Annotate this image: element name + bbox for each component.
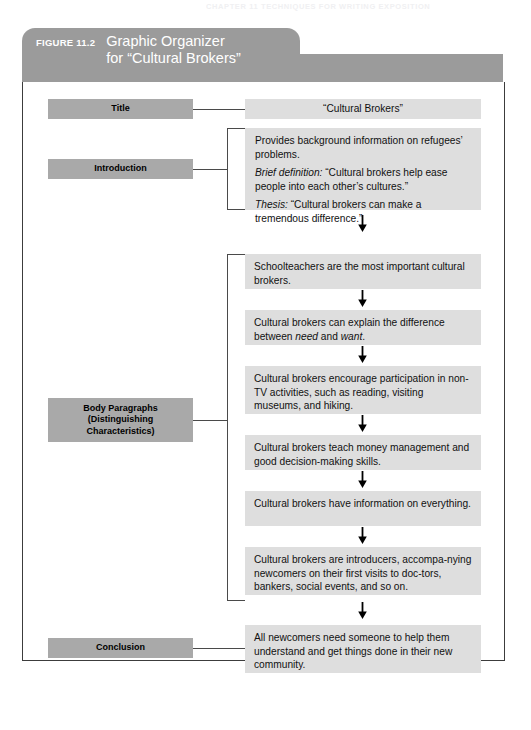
down-arrow-icon <box>356 602 369 620</box>
content-body-4: Cultural brokers teach money management … <box>245 435 481 470</box>
content-introduction: Provides background information on refug… <box>245 128 481 210</box>
intro-lead-3: Thesis: <box>255 199 288 210</box>
body-2-post: . <box>362 331 365 342</box>
figure-header-content: FIGURE 11.2 Graphic Organizer for “Cultu… <box>22 28 503 82</box>
content-body-2: Cultural brokers can explain the differe… <box>245 310 481 345</box>
down-arrow-icon <box>356 215 369 233</box>
content-body-1: Schoolteachers are the most important cu… <box>245 254 481 289</box>
down-arrow-icon <box>356 415 369 433</box>
label-title: Title <box>48 99 193 119</box>
figure-frame: Title “Cultural Brokers” Introduction Pr… <box>22 82 505 661</box>
connector-body-paragraphs <box>193 420 227 421</box>
content-body-6: Cultural brokers are introducers, accomp… <box>245 547 481 595</box>
content-title: “Cultural Brokers” <box>245 99 481 119</box>
connector-title <box>193 109 245 110</box>
intro-line-1: Provides background information on refug… <box>255 134 471 161</box>
figure-header-tab: FIGURE 11.2 Graphic Organizer for “Cultu… <box>22 28 503 82</box>
down-arrow-icon <box>356 290 369 308</box>
body-2-mid: and <box>318 331 341 342</box>
intro-lead-2: Brief definition: <box>255 167 322 178</box>
figure-title: Graphic Organizer for “Cultural Brokers” <box>106 33 241 66</box>
body-2-em1: need <box>295 331 318 342</box>
intro-line-2: Brief definition: “Cultural brokers help… <box>255 166 471 193</box>
content-body-5: Cultural brokers have information on eve… <box>245 491 481 526</box>
running-head: CHAPTER 11 TECHNIQUES FOR WRITING EXPOSI… <box>206 2 506 11</box>
down-arrow-icon <box>356 346 369 364</box>
down-arrow-icon <box>356 527 369 545</box>
figure-number-label: FIGURE 11.2 <box>36 33 95 48</box>
label-conclusion: Conclusion <box>48 638 193 658</box>
bracket-introduction <box>227 128 245 210</box>
content-body-3: Cultural brokers encourage participation… <box>245 366 481 414</box>
connector-introduction <box>193 169 227 170</box>
body-2-em2: want <box>341 331 363 342</box>
bracket-body-paragraphs <box>227 254 245 601</box>
content-conclusion: All newcomers need someone to help them … <box>245 625 481 673</box>
connector-conclusion <box>193 648 245 649</box>
figure-page: CHAPTER 11 TECHNIQUES FOR WRITING EXPOSI… <box>0 0 531 730</box>
label-body-paragraphs: Body Paragraphs (Distinguishing Characte… <box>48 398 193 442</box>
down-arrow-icon <box>356 471 369 489</box>
label-introduction: Introduction <box>48 159 193 179</box>
